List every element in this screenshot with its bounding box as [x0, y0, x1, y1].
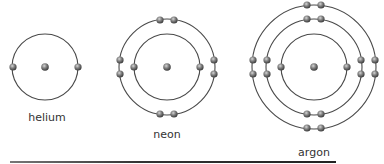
electron — [317, 110, 324, 117]
electron — [303, 1, 310, 8]
electron — [303, 110, 310, 117]
electron — [249, 70, 256, 77]
electron — [170, 16, 177, 23]
electron — [263, 70, 270, 77]
electron — [156, 16, 163, 23]
electron — [303, 15, 310, 22]
argon-label: argon — [298, 147, 330, 158]
electron — [196, 63, 203, 70]
electron — [371, 70, 378, 77]
electron — [357, 56, 364, 63]
electron — [317, 15, 324, 22]
electron — [9, 63, 16, 70]
neon-label: neon — [153, 129, 180, 140]
electron — [277, 63, 284, 70]
electron — [303, 124, 310, 131]
electron — [371, 56, 378, 63]
electron — [130, 63, 137, 70]
electron — [156, 110, 163, 117]
electron — [116, 70, 123, 77]
helium-nucleus — [41, 63, 49, 71]
electron — [263, 56, 270, 63]
helium-atom — [9, 34, 81, 100]
electron — [249, 56, 256, 63]
bohr-models-diagram: helium neon argon — [0, 0, 384, 164]
neon-nucleus — [163, 63, 171, 71]
electron — [357, 70, 364, 77]
electron — [116, 56, 123, 63]
atom-diagram-canvas — [0, 0, 384, 164]
electron — [317, 1, 324, 8]
argon-atom — [249, 1, 378, 131]
argon-nucleus — [310, 63, 318, 71]
electron — [170, 110, 177, 117]
electron — [210, 56, 217, 63]
electron — [317, 124, 324, 131]
helium-label: helium — [28, 112, 66, 123]
electron — [210, 70, 217, 77]
neon-atom — [116, 16, 217, 117]
baseline-rule — [10, 161, 336, 163]
electron — [343, 63, 350, 70]
electron — [74, 63, 81, 70]
